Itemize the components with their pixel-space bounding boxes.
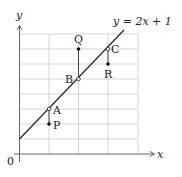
label-c: C (111, 43, 119, 56)
label-q: Q (74, 33, 83, 46)
point-r (106, 62, 110, 66)
x-axis-label: x (157, 148, 164, 161)
y-axis-label: y (15, 9, 23, 22)
point-p (47, 122, 51, 126)
label-p: P (53, 119, 61, 132)
diagram-canvas: x y 0 y = 2x + 1 A B C P Q R (0, 0, 182, 177)
label-a: A (52, 104, 62, 117)
point-q (77, 47, 81, 51)
point-b (77, 77, 81, 81)
label-r: R (104, 68, 113, 81)
origin-label: 0 (7, 155, 14, 168)
label-b: B (65, 73, 73, 86)
point-c (106, 47, 110, 51)
point-a (47, 107, 51, 111)
line-equation-label: y = 2x + 1 (112, 15, 172, 28)
